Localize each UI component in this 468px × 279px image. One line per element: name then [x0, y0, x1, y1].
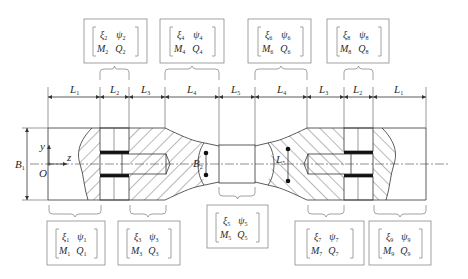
dim-label-l4: L4 — [186, 83, 196, 96]
state-box-9: ξ9ψ9 M9Q9 — [369, 205, 431, 265]
state-box-2: ξ2ψ2 M2Q2 — [84, 19, 147, 80]
dim-label-l5: L5 — [230, 83, 240, 96]
state-box-1: ξ1ψ1 M1Q1 — [47, 205, 105, 265]
axis-z-label: z — [66, 151, 72, 163]
dim-label-l1: L1 — [69, 83, 79, 96]
dim-label-l4-right: L4 — [276, 83, 286, 96]
dim-label-l3-right: L3 — [318, 83, 328, 96]
axis-y-label: y — [39, 140, 45, 152]
state-box-8: ξ8ψ8 M8Q8 — [327, 19, 389, 80]
state-box-3: ξ3ψ3 M3Q3 — [118, 205, 180, 265]
origin-label: O — [39, 167, 47, 179]
dim-label-l2: L2 — [109, 83, 119, 96]
dim-label-l1-right: L1 — [393, 83, 403, 96]
label-b2: B2 — [193, 157, 203, 170]
bolted-joint-diagram: L1 L2 L3 L4 L5 L4 L3 L2 L1 — [0, 0, 468, 279]
label-b1: B1 — [15, 158, 25, 171]
state-box-7: ξ7ψ7 M7Q7 — [295, 205, 364, 265]
coordinate-axes: y z O — [39, 140, 72, 179]
state-box-6: ξ6ψ6 M6Q6 — [248, 19, 311, 80]
dim-label-l2-right: L2 — [352, 83, 362, 96]
dim-label-l3: L3 — [140, 83, 150, 96]
state-box-5: ξ5ψ5 M5Q5 — [207, 187, 268, 248]
state-box-4: ξ4ψ4 M4Q4 — [160, 19, 224, 80]
dimension-chain-top: L1 L2 L3 L4 L5 L4 L3 L2 L1 — [48, 83, 426, 145]
assembly-body — [30, 128, 450, 200]
